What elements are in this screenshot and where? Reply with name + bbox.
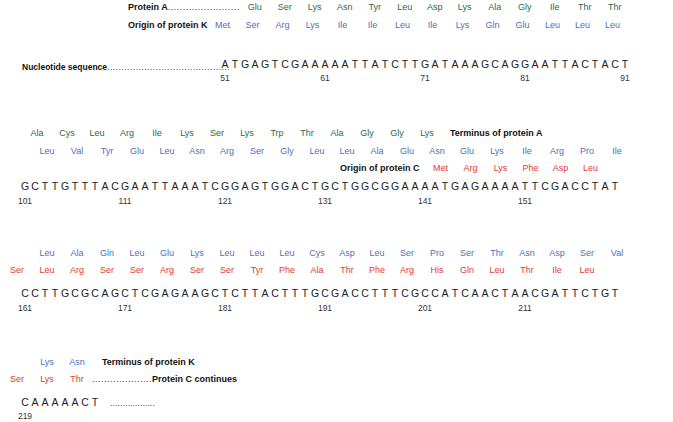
nucleotide-base: T [300, 287, 310, 299]
nucleotide-base: A [100, 287, 110, 299]
nucleotide-base: A [160, 287, 170, 299]
position-marker: 219 [18, 411, 32, 421]
nucleotide-base: A [340, 58, 350, 70]
protein-a-label: Protein A [128, 2, 168, 12]
nucleotide-base: C [30, 287, 40, 299]
position-marker: 121 [218, 196, 232, 206]
residue: Ser [452, 248, 482, 258]
nucleotide-base: A [570, 58, 580, 70]
nucleotide-base: A [320, 58, 330, 70]
residue: Thr [292, 128, 322, 138]
nucleotide-base: G [150, 287, 160, 299]
residue: Ile [328, 20, 358, 30]
nucleotide-row-2: GCTTGTTTACGAATTAAATCGGAGTGGACTGCTGGCGGAA… [20, 180, 620, 192]
nucleotide-base: A [220, 58, 230, 70]
residue: Lys [182, 248, 212, 258]
residue: Arg [392, 265, 422, 275]
position-marker: 191 [318, 303, 332, 313]
nucleotide-base: G [520, 58, 530, 70]
nucleotide-base: G [470, 180, 480, 192]
nucleotide-base: G [380, 180, 390, 192]
nucleotide-base: C [70, 287, 80, 299]
residue: Arg [62, 265, 92, 275]
nucleotide-base: A [500, 180, 510, 192]
nucleotide-base: T [500, 287, 510, 299]
residue: Asp [420, 2, 450, 12]
nucleotide-base: T [340, 180, 350, 192]
nucleotide-base: T [590, 58, 600, 70]
residue: Leu [272, 248, 302, 258]
nucleotide-base: T [150, 180, 160, 192]
nucleotide-base: T [220, 287, 230, 299]
nucleotide-base: A [530, 58, 540, 70]
residue: Arg [268, 20, 298, 30]
nucleotide-base: T [80, 180, 90, 192]
nucleotide-base: A [480, 287, 490, 299]
nucleotide-base: G [330, 287, 340, 299]
residue: Pro [572, 146, 602, 156]
residue: Leu [538, 20, 568, 30]
nucleotide-base: G [450, 180, 460, 192]
nucleotide-base: T [440, 180, 450, 192]
position-marker: 151 [518, 196, 532, 206]
residue: Gln [452, 265, 482, 275]
residue: Ile [142, 128, 172, 138]
nucleotide-base: C [30, 180, 40, 192]
nucleotide-base: A [70, 396, 80, 408]
nucleotide-base: C [460, 287, 470, 299]
position-marker: 201 [418, 303, 432, 313]
residue: Gly [510, 2, 540, 12]
nucleotide-base: C [120, 287, 130, 299]
nucleotide-base: A [600, 180, 610, 192]
nucleotide-base: C [300, 180, 310, 192]
nucleotide-base: T [40, 180, 50, 192]
nucleotide-base: T [370, 287, 380, 299]
residue: Ser [2, 265, 32, 275]
residue: Leu [32, 146, 62, 156]
residue: Tyr [360, 2, 390, 12]
residue: Thr [332, 265, 362, 275]
nucleotide-base: G [350, 180, 360, 192]
nucleotide-base: C [530, 287, 540, 299]
residue: Leu [302, 146, 332, 156]
residue: Glu [452, 146, 482, 156]
nucleotide-base: T [400, 58, 410, 70]
nucleotide-base: A [290, 180, 300, 192]
nucleotide-base: A [170, 180, 180, 192]
nucleotide-base: T [310, 180, 320, 192]
nucleotide-base: C [580, 180, 590, 192]
residue: Arg [212, 146, 242, 156]
nucleotide-base: C [370, 180, 380, 192]
nucleotide-base: C [280, 58, 290, 70]
residue: Leu [482, 265, 512, 275]
residue: Ile [512, 146, 542, 156]
nucleotide-base: C [270, 287, 280, 299]
nucleotide-base: G [320, 180, 330, 192]
nucleotide-base: C [110, 180, 120, 192]
residue: Ser [182, 265, 212, 275]
nucleotide-base: C [400, 287, 410, 299]
residue: Phe [516, 163, 546, 173]
nucleotide-sequence-label: Nucleotide sequence.....................… [22, 62, 230, 72]
frame-row-blue-3: LeuAlaGlnLeuGluLysLeuLeuLeuCysAspLeuSerP… [32, 248, 632, 258]
dna-sequence-figure: { "figure": { "title": "", "labels": { "… [0, 0, 673, 422]
residue: Ser [238, 20, 268, 30]
nucleotide-base: C [580, 287, 590, 299]
nucleotide-base: T [610, 287, 620, 299]
nucleotide-base: A [480, 180, 490, 192]
frame-row-red-3: SerLeuArgSerSerArgSerSerTyrPheAlaThrPheA… [2, 265, 602, 275]
residue: His [422, 265, 452, 275]
nucleotide-base: A [180, 180, 190, 192]
residue: Val [602, 248, 632, 258]
nucleotide-base: A [500, 58, 510, 70]
origin-protein-c-label: Origin of protein C [340, 163, 426, 173]
residue: Ala [22, 128, 52, 138]
residue: Ser [122, 265, 152, 275]
protein-c-continues-label: Protein C continues [152, 374, 237, 384]
residue: Leu [32, 265, 62, 275]
nucleotide-base: A [550, 287, 560, 299]
position-marker: 101 [18, 196, 32, 206]
residue: Glu [152, 248, 182, 258]
residue: Gln [478, 20, 508, 30]
nucleotide-base: A [50, 396, 60, 408]
